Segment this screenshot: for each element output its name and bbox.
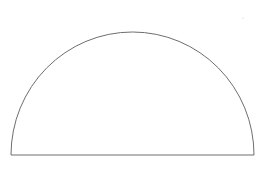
faint-speck-artifact [242, 17, 244, 19]
semicircle-figure [0, 0, 268, 169]
diagram-canvas [0, 0, 268, 169]
